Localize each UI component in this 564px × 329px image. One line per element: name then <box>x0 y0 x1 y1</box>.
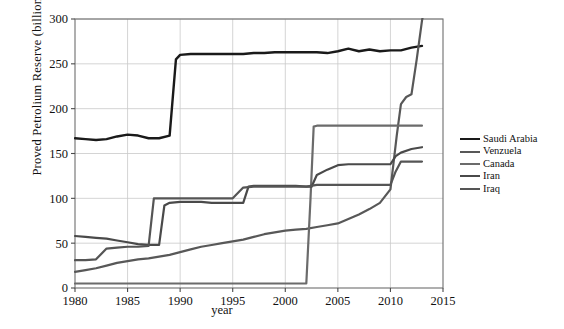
chart-legend: Saudi ArabiaVenzuelaCanadaIranIraq <box>460 133 564 195</box>
svg-text:150: 150 <box>49 147 68 161</box>
svg-text:250: 250 <box>49 57 68 71</box>
legend-swatch <box>460 188 480 190</box>
y-tick-labels: 050100150200250300 <box>49 12 68 295</box>
legend-swatch <box>460 175 480 177</box>
svg-text:100: 100 <box>49 192 68 206</box>
legend-item-venzuela: Venzuela <box>460 145 564 157</box>
chart-container: 050100150200250300 198019851990199520002… <box>0 0 564 329</box>
legend-label: Venzuela <box>483 145 521 157</box>
legend-label: Iraq <box>483 183 500 195</box>
series-line-canada <box>75 126 422 284</box>
svg-text:200: 200 <box>49 102 68 116</box>
legend-swatch <box>460 138 480 140</box>
x-axis-label: year <box>0 303 444 318</box>
series-line-iran <box>75 147 422 245</box>
legend-item-iraq: Iraq <box>460 183 564 195</box>
legend-item-canada: Canada <box>460 158 564 170</box>
svg-text:50: 50 <box>56 237 69 251</box>
legend-swatch <box>460 163 480 165</box>
y-axis-label: Proved Petrolium Reserve (billions of Ba… <box>30 0 45 180</box>
legend-item-saudi-arabia: Saudi Arabia <box>460 133 564 145</box>
svg-text:300: 300 <box>49 12 68 26</box>
legend-label: Saudi Arabia <box>483 133 538 145</box>
legend-item-iran: Iran <box>460 170 564 182</box>
legend-swatch <box>460 151 480 153</box>
axes <box>71 19 443 292</box>
legend-label: Canada <box>483 158 515 170</box>
legend-label: Iran <box>483 170 500 182</box>
series-line-iraq <box>75 162 422 261</box>
